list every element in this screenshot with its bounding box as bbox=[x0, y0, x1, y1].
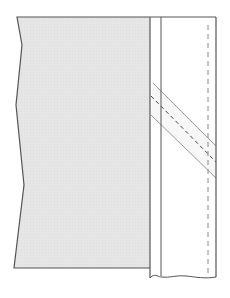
sewing-diagram bbox=[0, 0, 230, 298]
fabric-panel bbox=[14, 17, 150, 268]
